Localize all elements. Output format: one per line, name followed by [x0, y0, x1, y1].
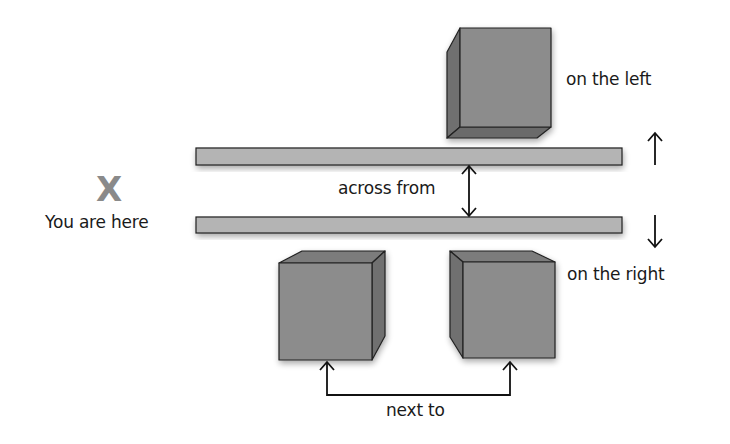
you-are-here-marker: X [96, 172, 122, 206]
down-arrow-icon [648, 215, 662, 247]
next-to-label: next to [386, 400, 445, 420]
building-bottom-left-cube [279, 251, 385, 360]
on-the-left-label: on the left [566, 69, 651, 89]
you-are-here-label: You are here [45, 212, 149, 232]
next-to-connector-icon [320, 362, 517, 395]
on-the-right-label: on the right [567, 264, 664, 284]
building-bottom-right-cube [450, 251, 555, 358]
building-top-cube [447, 28, 551, 138]
diagram-canvas: X You are here on the left across from o… [0, 0, 730, 444]
up-arrow-icon [648, 133, 662, 165]
street-edge-top [196, 148, 622, 165]
street-edge-bottom [196, 217, 622, 233]
across-from-label: across from [338, 178, 435, 198]
across-from-arrow-icon [462, 166, 476, 216]
